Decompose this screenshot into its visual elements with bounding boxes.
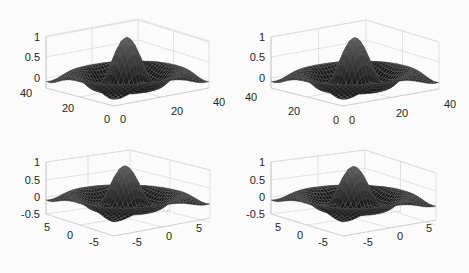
surface-plot xyxy=(46,166,210,222)
subplot-bottom-left[interactable]: -0.500.5150-5-505 xyxy=(21,150,210,248)
surface-plot xyxy=(271,166,436,222)
subplot-top-right[interactable]: 00.514020002040 xyxy=(245,20,456,126)
z-tick-label: 0.5 xyxy=(250,51,265,63)
x-tick-label: 0 xyxy=(120,113,126,125)
z-tick-label: 0.5 xyxy=(25,174,40,186)
subplot-top-left[interactable]: 00.514020002040 xyxy=(20,19,225,125)
x-tick-label: 20 xyxy=(396,107,408,119)
z-tick-label: 0.5 xyxy=(250,174,265,186)
subplot-bottom-right[interactable]: -0.500.5150-5-505 xyxy=(246,150,436,248)
y-tick-label: 0 xyxy=(297,229,303,241)
z-tick-label: 0 xyxy=(259,191,265,203)
y-tick-label: 5 xyxy=(44,221,50,233)
x-tick-label: -5 xyxy=(363,236,373,248)
z-tick-label: -0.5 xyxy=(246,208,265,220)
x-tick-label: 5 xyxy=(426,222,432,234)
z-tick-label: 1 xyxy=(34,31,40,43)
z-tick-label: 0.5 xyxy=(25,51,40,63)
y-tick-label: 0 xyxy=(333,114,339,126)
z-tick-label: 0 xyxy=(259,72,265,84)
x-tick-label: 40 xyxy=(444,98,456,110)
x-tick-label: 20 xyxy=(171,105,183,117)
x-tick-label: 0 xyxy=(349,114,355,126)
x-tick-label: 0 xyxy=(397,230,403,242)
x-tick-label: 40 xyxy=(213,96,225,108)
y-tick-label: 40 xyxy=(20,87,32,99)
y-tick-label: 20 xyxy=(288,105,300,117)
z-tick-label: 0 xyxy=(34,191,40,203)
x-tick-label: 5 xyxy=(196,222,202,234)
figure-canvas: 00.514020002040 00.514020002040 -0.500.5… xyxy=(0,0,469,273)
z-tick-label: 1 xyxy=(34,156,40,168)
y-tick-label: -5 xyxy=(318,236,328,248)
y-tick-label: -5 xyxy=(89,236,99,248)
y-tick-label: 0 xyxy=(104,113,110,125)
figure-window: 00.514020002040 00.514020002040 -0.500.5… xyxy=(0,0,469,273)
y-tick-label: 0 xyxy=(67,229,73,241)
surface-plot xyxy=(46,37,209,99)
z-tick-label: -0.5 xyxy=(21,208,40,220)
y-tick-label: 20 xyxy=(62,102,74,114)
z-tick-label: 1 xyxy=(259,31,265,43)
x-tick-label: 0 xyxy=(166,230,172,242)
x-tick-label: -5 xyxy=(132,236,142,248)
surface-plot xyxy=(271,38,439,100)
z-tick-label: 0 xyxy=(34,72,40,84)
y-tick-label: 40 xyxy=(245,91,257,103)
z-tick-label: 1 xyxy=(259,156,265,168)
y-tick-label: 5 xyxy=(275,221,281,233)
